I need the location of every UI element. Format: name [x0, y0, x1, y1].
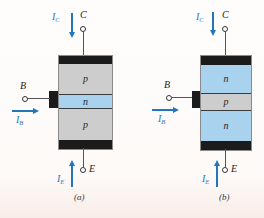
- collector-current-label: IC: [196, 12, 204, 24]
- emitter-current-label: IE: [202, 174, 209, 186]
- npn-block: n p n: [200, 55, 252, 151]
- emitter-current-arrow-icon: [216, 165, 218, 187]
- region-n-bottom: n: [201, 111, 251, 141]
- base-metal-contact: [192, 91, 200, 108]
- base-terminal-circle: [166, 95, 172, 101]
- region-p-middle: p: [201, 93, 251, 111]
- base-lead-wire: [172, 97, 192, 98]
- figure-npn: IC C n p n B IB E IE (b): [0, 0, 264, 218]
- collector-current-arrow-icon: [212, 12, 214, 31]
- transistor-structure-diagram: IC C p n p B IB E IE (a) IC C: [0, 0, 264, 218]
- emitter-terminal-circle: [222, 167, 228, 173]
- base-current-arrow-icon: [152, 109, 174, 111]
- collector-lead-wire: [225, 32, 226, 55]
- emitter-metal-contact: [201, 141, 251, 150]
- base-terminal-label: B: [164, 80, 170, 90]
- region-n-top: n: [201, 65, 251, 93]
- emitter-terminal-label: E: [231, 164, 237, 174]
- figure-b-caption: (b): [219, 193, 230, 202]
- emitter-lead-wire: [225, 149, 226, 167]
- collector-terminal-label: C: [222, 10, 229, 20]
- base-current-label: IB: [158, 114, 165, 126]
- collector-metal-contact: [201, 56, 251, 65]
